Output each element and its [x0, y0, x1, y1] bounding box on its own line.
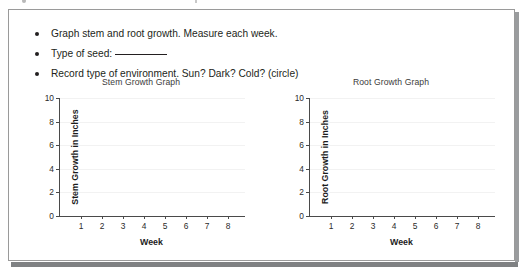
y-axis-tick-label: 6 [299, 141, 304, 149]
remnant-tick-mark [195, 0, 197, 3]
x-axis-tick-label: 1 [329, 222, 334, 230]
x-axis-tick-label: 3 [371, 222, 376, 230]
panel-shadow-bottom [11, 262, 518, 267]
x-axis-tick [81, 216, 82, 219]
y-axis-tick-label: 8 [299, 117, 304, 125]
y-axis-title: Stem Growth in Inches [70, 92, 80, 222]
stem-plot-area: 024681012345678 [59, 98, 245, 217]
x-axis-tick [144, 216, 145, 219]
gridline [60, 145, 245, 146]
chart-title: Root Growth Graph [273, 77, 509, 87]
x-axis-tick [165, 216, 166, 219]
x-axis-tick-label: 4 [392, 222, 397, 230]
instruction-text: Graph stem and root growth. Measure each… [51, 28, 278, 39]
gridline [60, 122, 245, 123]
stem-growth-chart: Stem Growth Graph 024681012345678 Stem G… [23, 77, 259, 257]
gridline [310, 145, 495, 146]
gridline [60, 169, 245, 170]
x-axis-tick [373, 216, 374, 219]
worksheet-panel: Graph stem and root growth. Measure each… [8, 9, 515, 261]
gridline [310, 169, 495, 170]
y-axis-tick [56, 216, 60, 217]
x-axis-tick-label: 7 [205, 222, 210, 230]
bullet-dot-icon [35, 32, 39, 36]
instruction-text: Type of seed: [51, 48, 112, 59]
x-axis-tick-label: 6 [434, 222, 439, 230]
y-axis-tick-label: 2 [49, 188, 54, 196]
gridline [310, 192, 495, 193]
x-axis-tick [352, 216, 353, 219]
y-axis-tick [306, 216, 310, 217]
root-growth-chart: Root Growth Graph 024681012345678 Root G… [273, 77, 509, 257]
x-axis-tick-label: 2 [100, 222, 105, 230]
y-axis-tick-label: 2 [299, 188, 304, 196]
y-axis-tick-label: 6 [49, 141, 54, 149]
x-axis-tick-label: 7 [455, 222, 460, 230]
y-axis-tick-label: 0 [299, 212, 304, 220]
seed-type-blank[interactable] [115, 53, 167, 55]
x-axis-tick-label: 1 [79, 222, 84, 230]
list-item: Graph stem and root growth. Measure each… [31, 27, 471, 41]
y-axis-title: Root Growth in Inches [320, 92, 330, 222]
x-axis-tick [207, 216, 208, 219]
x-axis-tick-label: 5 [413, 222, 418, 230]
x-axis-title: Week [309, 237, 494, 247]
y-axis-tick-label: 4 [49, 165, 54, 173]
charts-container: Stem Growth Graph 024681012345678 Stem G… [1, 77, 528, 257]
gridline [60, 192, 245, 193]
x-axis-tick [123, 216, 124, 219]
y-axis-tick-label: 10 [295, 94, 304, 102]
x-axis-tick [331, 216, 332, 219]
y-axis-tick-label: 10 [45, 94, 54, 102]
gridline [60, 98, 245, 99]
x-axis-tick [228, 216, 229, 219]
x-axis-tick-label: 8 [226, 222, 231, 230]
root-plot-area: 024681012345678 [309, 98, 495, 217]
x-axis-tick [436, 216, 437, 219]
x-axis-title: Week [59, 237, 244, 247]
x-axis-tick-label: 8 [476, 222, 481, 230]
x-axis-tick [415, 216, 416, 219]
x-axis-tick [457, 216, 458, 219]
bullet-dot-icon [35, 72, 39, 76]
x-axis-tick [478, 216, 479, 219]
x-axis-tick-label: 6 [184, 222, 189, 230]
x-axis-tick-label: 4 [142, 222, 147, 230]
x-axis-tick-label: 5 [163, 222, 168, 230]
page-top-remnant [0, 0, 528, 7]
chart-title: Stem Growth Graph [23, 77, 259, 87]
gridline [310, 122, 495, 123]
gridline [310, 98, 495, 99]
remnant-bullet-dot [22, 0, 26, 3]
x-axis-tick-label: 3 [121, 222, 126, 230]
x-axis-tick [186, 216, 187, 219]
y-axis-tick-label: 4 [299, 165, 304, 173]
y-axis-tick-label: 0 [49, 212, 54, 220]
x-axis-tick [102, 216, 103, 219]
x-axis-tick-label: 2 [350, 222, 355, 230]
list-item: Type of seed: [31, 47, 471, 61]
x-axis-tick [394, 216, 395, 219]
bullet-dot-icon [35, 52, 39, 56]
y-axis-tick-label: 8 [49, 117, 54, 125]
